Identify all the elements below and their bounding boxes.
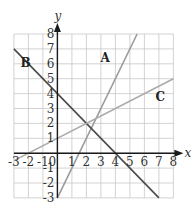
y-axis-label: y bbox=[53, 9, 61, 23]
series-group bbox=[14, 34, 174, 198]
line-label-c: C bbox=[156, 90, 166, 104]
x-tick-label: 5 bbox=[126, 155, 134, 169]
y-tick-label: 1 bbox=[47, 131, 55, 145]
line-c bbox=[14, 79, 174, 161]
x-tick-label: 2 bbox=[83, 155, 91, 169]
x-tick-label: 4 bbox=[112, 155, 120, 169]
grid bbox=[14, 34, 174, 198]
x-tick-label: 6 bbox=[141, 155, 149, 169]
y-tick-label: 6 bbox=[47, 57, 55, 71]
y-tick-label: -3 bbox=[43, 191, 55, 205]
y-axis-arrow-icon bbox=[54, 23, 61, 32]
x-tick-label: 8 bbox=[170, 155, 178, 169]
y-tick-label: 4 bbox=[47, 87, 55, 101]
line-label-a: A bbox=[100, 51, 111, 65]
y-tick-label: -2 bbox=[43, 176, 55, 190]
x-tick-label: -2 bbox=[23, 155, 35, 169]
y-tick-label: 5 bbox=[47, 72, 55, 86]
tick-labels: -3-2-101234567887654321-1-2-3 bbox=[8, 27, 177, 205]
line-graph: -3-2-101234567887654321-1-2-3 x y ABC bbox=[0, 0, 194, 210]
x-tick-label: 7 bbox=[155, 155, 163, 169]
y-tick-label: 2 bbox=[47, 116, 55, 130]
y-tick-label: 7 bbox=[47, 42, 55, 56]
x-tick-label: 1 bbox=[68, 155, 76, 169]
y-tick-label: -1 bbox=[43, 161, 55, 175]
line-label-b: B bbox=[20, 56, 30, 70]
x-axis-label: x bbox=[184, 146, 191, 160]
y-tick-label: 3 bbox=[47, 102, 55, 116]
line-a bbox=[57, 34, 137, 198]
y-tick-label: 8 bbox=[47, 27, 55, 41]
x-tick-label: 3 bbox=[97, 155, 105, 169]
x-tick-label: -3 bbox=[8, 155, 20, 169]
